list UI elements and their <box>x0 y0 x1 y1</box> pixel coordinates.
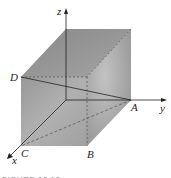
cube-diagram: z y x A B C D FIGURE 13.10 <box>0 0 171 178</box>
point-label-D: D <box>9 71 18 83</box>
z-axis-label: z <box>56 5 62 17</box>
y-axis-label: y <box>159 102 165 114</box>
x-axis-label: x <box>11 154 17 166</box>
point-label-C: C <box>21 147 29 159</box>
figure-caption: FIGURE 13.10 <box>2 175 61 178</box>
point-label-B: B <box>87 148 94 160</box>
point-label-A: A <box>130 101 138 113</box>
z-axis-arrow-icon <box>64 8 68 14</box>
